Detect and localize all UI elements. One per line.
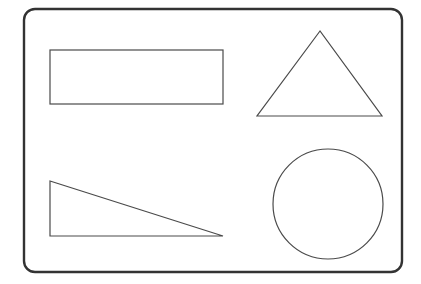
background [0, 0, 421, 284]
shapes-diagram [0, 0, 421, 284]
diagram-svg [0, 0, 421, 284]
